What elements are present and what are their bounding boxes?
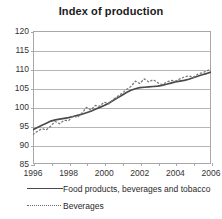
series-line-food-products: [33, 72, 211, 130]
x-tick-mark: [212, 163, 213, 166]
x-axis-tick-label: 1996: [24, 168, 43, 178]
legend-swatch-solid-icon: [25, 184, 63, 194]
y-axis-tick-label: 90: [0, 140, 29, 150]
y-axis-tick-label: 110: [0, 64, 29, 74]
y-axis-tick-label: 115: [0, 45, 29, 55]
y-axis-tick-label: 95: [0, 121, 29, 131]
y-axis-tick-label: 120: [0, 26, 29, 36]
legend-label-beverages: Beverages: [63, 201, 104, 211]
x-axis-tick-label: 2006: [202, 168, 221, 178]
legend-item-food-products: Food products, beverages and tobacco: [25, 180, 222, 197]
chart-title: Index of production: [0, 5, 222, 17]
x-axis-tick-label: 2002: [130, 168, 149, 178]
chart-container: Index of production 12011511010510095908…: [0, 0, 222, 219]
x-axis-tick-label: 2004: [166, 168, 185, 178]
data-series-layer: [33, 31, 211, 164]
y-axis-tick-label: 100: [0, 102, 29, 112]
legend-swatch-dashed-icon: [25, 201, 63, 211]
y-axis-tick-label: 105: [0, 83, 29, 93]
x-axis-tick-label: 2000: [95, 168, 114, 178]
series-line-beverages: [33, 69, 211, 135]
legend-item-beverages: Beverages: [25, 197, 222, 214]
chart-legend: Food products, beverages and tobacco Bev…: [25, 180, 222, 214]
x-axis-tick-label: 1998: [59, 168, 78, 178]
legend-label-food-products: Food products, beverages and tobacco: [63, 184, 210, 194]
